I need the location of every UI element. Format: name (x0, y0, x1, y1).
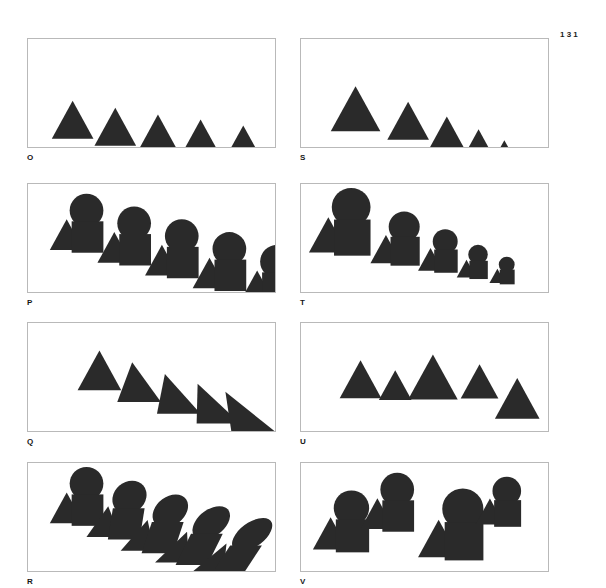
triangle-shape (495, 378, 540, 419)
panel-label-v: V (300, 577, 306, 586)
shape-group (50, 467, 104, 526)
square-shape (72, 221, 104, 252)
triangle-shape (225, 392, 275, 431)
shape-group (457, 245, 488, 279)
triangle-shape (117, 362, 161, 402)
triangle-shape (461, 364, 499, 398)
figure-panel-r (27, 462, 276, 572)
shape-group (418, 489, 483, 561)
shape-group (145, 219, 199, 278)
figure-panel-p (27, 183, 276, 293)
triangle-shape (222, 125, 264, 147)
triangle-shape (429, 117, 464, 147)
panel-label-t: T (300, 298, 305, 307)
figure-panel-t (300, 183, 549, 293)
panel-label-r: R (27, 577, 33, 586)
triangle-shape (379, 370, 412, 400)
shape-group (370, 211, 419, 265)
panel-figure-s (301, 39, 548, 147)
shape-group (309, 188, 371, 256)
shape-group (361, 473, 415, 532)
panel-figure-v (301, 463, 548, 571)
shape-group (418, 229, 458, 273)
square-shape (391, 237, 420, 266)
panel-label-u: U (300, 437, 306, 446)
shape-group (313, 490, 369, 552)
panel-label-p: P (27, 298, 33, 307)
triangle-shape (78, 350, 122, 390)
panel-figure-q (28, 323, 275, 431)
square-shape (445, 522, 484, 560)
triangle-shape (493, 140, 515, 147)
square-shape (500, 270, 515, 285)
square-shape (494, 500, 521, 527)
figure-panel-v (300, 462, 549, 572)
square-shape (434, 250, 457, 273)
triangle-shape (387, 102, 429, 140)
triangle-shape (465, 129, 493, 147)
triangle-shape (180, 120, 222, 147)
triangle-shape (408, 354, 458, 399)
figure-panel-q (27, 322, 276, 432)
figure-panel-s (300, 38, 549, 148)
panel-figure-u (301, 323, 548, 431)
triangle-shape (137, 115, 179, 147)
square-shape (469, 261, 487, 279)
shape-group (50, 194, 104, 253)
shape-group (193, 232, 247, 291)
triangle-shape (94, 108, 136, 146)
panel-figure-p (28, 184, 275, 292)
square-shape (119, 234, 151, 265)
figure-panel-u (300, 322, 549, 432)
panel-label-s: S (300, 153, 306, 162)
panel-figure-o (28, 39, 275, 147)
figure-panel-o (27, 38, 276, 148)
square-shape (262, 272, 275, 292)
shape-group (489, 257, 514, 285)
triangle-shape (340, 360, 382, 398)
shape-group (97, 207, 151, 266)
square-shape (167, 247, 199, 278)
page-number: 131 (560, 30, 580, 39)
triangle-shape (157, 374, 201, 414)
triangle-shape (52, 101, 94, 139)
panel-label-q: Q (27, 437, 34, 446)
panel-figure-t (301, 184, 548, 292)
triangle-shape (331, 86, 381, 131)
shape-group (476, 477, 522, 527)
square-shape (334, 220, 371, 256)
square-shape (382, 500, 414, 531)
panel-figure-r (28, 463, 275, 571)
panel-label-o: O (27, 153, 34, 162)
square-shape (214, 260, 246, 291)
figure-page: 131 OSPTQURV (0, 0, 606, 588)
